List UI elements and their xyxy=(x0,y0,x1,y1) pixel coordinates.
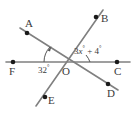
point-label-A: A xyxy=(25,18,33,29)
angle-label-FOA: 32° xyxy=(38,64,49,75)
angle-arc-BOC xyxy=(86,55,90,62)
point-dot-A xyxy=(25,31,30,36)
point-dot-D xyxy=(106,82,111,87)
angle-constant-term: + 4 xyxy=(87,46,99,56)
line-BE xyxy=(36,10,103,106)
angle-value-32: 32 xyxy=(38,65,47,75)
point-dot-F xyxy=(11,60,16,65)
point-label-O: O xyxy=(62,66,70,77)
diagram-canvas xyxy=(0,0,136,116)
point-dot-B xyxy=(94,15,99,20)
point-label-D: D xyxy=(107,88,115,99)
point-label-F: F xyxy=(9,66,15,77)
point-label-E: E xyxy=(48,95,55,106)
point-label-C: C xyxy=(114,66,121,77)
point-dot-C xyxy=(115,60,120,65)
degree-symbol-var: ° xyxy=(83,45,85,51)
angle-label-BOC: 3x° + 4° xyxy=(74,45,101,56)
point-dot-E xyxy=(43,95,48,100)
geometry-diagram: A B C D E F O 32° 3x° + 4° xyxy=(0,0,136,116)
point-label-B: B xyxy=(101,13,108,24)
degree-symbol-const: ° xyxy=(99,45,101,51)
degree-symbol-left: ° xyxy=(47,64,49,70)
